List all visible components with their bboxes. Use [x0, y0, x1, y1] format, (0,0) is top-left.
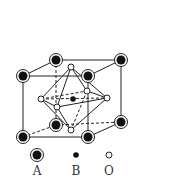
- a-atom: [82, 131, 95, 144]
- legend-o-symbol: [106, 152, 112, 158]
- o-atom: [84, 88, 90, 94]
- a-atom: [50, 119, 63, 132]
- perovskite-diagram: A B O: [0, 0, 188, 182]
- o-atom: [68, 64, 74, 70]
- a-atom: [82, 70, 95, 83]
- a-atom: [17, 70, 30, 83]
- o-atom: [104, 95, 110, 101]
- a-atom: [115, 54, 128, 67]
- legend-a-symbol: [31, 149, 44, 162]
- legend: A B O: [31, 149, 115, 179]
- o-atom: [68, 127, 74, 133]
- legend-b-symbol: [73, 152, 79, 158]
- legend-b-label: B: [72, 164, 81, 178]
- o-atom: [38, 96, 44, 102]
- a-atom: [115, 116, 128, 129]
- legend-a-label: A: [32, 164, 42, 178]
- o-atom: [54, 104, 60, 110]
- a-atom: [50, 54, 63, 67]
- a-atom: [17, 131, 30, 144]
- b-atom: [70, 96, 76, 102]
- legend-o-label: O: [104, 164, 114, 178]
